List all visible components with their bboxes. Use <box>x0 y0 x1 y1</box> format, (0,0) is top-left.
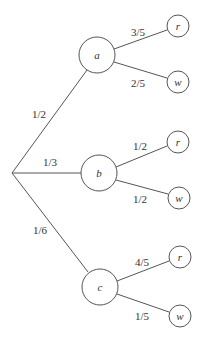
prob-label-c-w: 1/5 <box>135 310 150 322</box>
prob-label-c-r: 4/5 <box>135 256 150 268</box>
prob-label-a: 1/2 <box>32 108 46 120</box>
node-b-w: w <box>168 187 190 209</box>
svg-text:w: w <box>176 310 184 322</box>
svg-text:w: w <box>174 76 182 88</box>
node-a-r: r <box>167 15 189 37</box>
node-c-w: w <box>169 305 191 327</box>
edge-a-w <box>114 62 167 78</box>
node-b: b <box>81 155 117 191</box>
prob-label-b-w: 1/2 <box>133 193 147 205</box>
prob-label-a-w: 2/5 <box>131 77 146 89</box>
node-c: c <box>82 269 118 305</box>
node-b-r: r <box>167 131 189 153</box>
edge-b-w <box>116 180 168 194</box>
svg-text:b: b <box>96 167 102 179</box>
svg-text:r: r <box>178 251 183 263</box>
prob-label-b: 1/3 <box>43 156 58 168</box>
prob-label-a-r: 3/5 <box>131 26 146 38</box>
node-a: a <box>79 37 115 73</box>
prob-label-c: 1/6 <box>33 224 48 236</box>
svg-text:r: r <box>176 136 181 148</box>
node-a-w: w <box>167 71 189 93</box>
svg-text:c: c <box>98 281 103 293</box>
svg-text:r: r <box>176 20 181 32</box>
node-c-r: r <box>169 246 191 268</box>
prob-label-b-r: 1/2 <box>133 140 147 152</box>
probability-tree: a b c r w r w r w 1/2 1/3 1/6 3/5 2/5 1/… <box>0 0 202 339</box>
svg-text:a: a <box>94 49 100 61</box>
svg-text:w: w <box>175 192 183 204</box>
edge-root-c <box>12 173 88 272</box>
